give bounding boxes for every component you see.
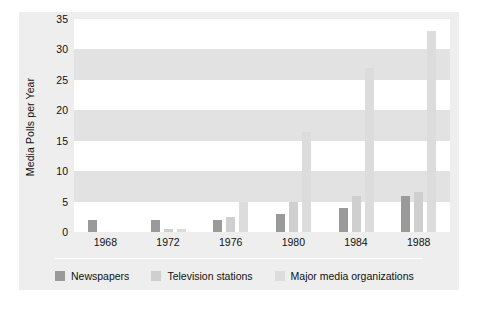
bar (427, 31, 436, 232)
plot-area (74, 19, 450, 232)
y-axis-tick-labels: 05101520253035 (41, 12, 71, 242)
x-axis-tick-label: 1968 (94, 236, 117, 248)
chart-legend: NewspapersTelevision stationsMajor media… (55, 268, 436, 284)
y-axis-tick-label: 35 (56, 13, 68, 25)
bar (213, 220, 222, 232)
bar (276, 214, 285, 232)
legend-swatch-icon (55, 271, 65, 281)
x-axis-tick-label: 1976 (219, 236, 242, 248)
y-axis-tick-label: 0 (62, 226, 68, 238)
y-axis-title-label: Media Polls per Year (24, 78, 36, 176)
y-axis-tick-label: 10 (56, 165, 68, 177)
legend-label: Major media organizations (291, 270, 414, 282)
legend-label: Television stations (167, 270, 252, 282)
legend-item: Television stations (151, 270, 252, 282)
bar (239, 202, 248, 232)
legend-swatch-icon (151, 271, 161, 281)
bar (88, 220, 97, 232)
y-axis-tick-label: 25 (56, 74, 68, 86)
bar-series-group (74, 19, 450, 232)
chart-figure: Media Polls per Year 05101520253035 1968… (19, 12, 459, 290)
legend-swatch-icon (275, 271, 285, 281)
x-axis-tick-label: 1980 (282, 236, 305, 248)
bar (177, 229, 186, 232)
x-axis-tick-labels: 196819721976198019841988 (74, 234, 450, 254)
legend-item: Major media organizations (275, 270, 414, 282)
bar (289, 202, 298, 232)
y-axis-tick-label: 15 (56, 135, 68, 147)
legend-label: Newspapers (71, 270, 129, 282)
bar (302, 132, 311, 232)
x-axis-tick-label: 1984 (344, 236, 367, 248)
bar (401, 196, 410, 233)
bar (365, 68, 374, 232)
legend-item: Newspapers (55, 270, 129, 282)
bar (226, 217, 235, 232)
x-axis-tick-label: 1988 (407, 236, 430, 248)
y-axis-tick-label: 20 (56, 104, 68, 116)
x-axis-tick-label: 1972 (156, 236, 179, 248)
bar (339, 208, 348, 232)
y-axis-tick-label: 5 (62, 196, 68, 208)
bar (164, 229, 173, 232)
bar (414, 192, 423, 232)
legend-divider (55, 258, 423, 259)
y-axis-tick-label: 30 (56, 43, 68, 55)
bar (352, 196, 361, 233)
bar (151, 220, 160, 232)
y-axis-title: Media Polls per Year (19, 12, 41, 242)
